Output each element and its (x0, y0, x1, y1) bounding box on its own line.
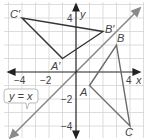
point-label-b-prime: B′ (105, 23, 115, 35)
tick-x-neg4: −4 (14, 75, 26, 86)
point-label-a: A (79, 86, 87, 98)
line-callout: y = x (4, 89, 38, 109)
x-axis-label: x (135, 74, 142, 86)
point-label-c: C (125, 126, 133, 138)
y-axis-arrow-icon (73, 4, 79, 11)
tick-y-4: 4 (67, 13, 73, 24)
line-callout-text: y = x (8, 90, 33, 102)
tick-x-neg2: −2 (40, 75, 52, 86)
tick-y-neg2: −2 (61, 94, 73, 105)
tick-y-neg4: −4 (61, 121, 73, 132)
tick-x-4: 4 (126, 75, 132, 86)
y-axis-arrow-icon (73, 131, 79, 138)
grid (4, 2, 144, 138)
coordinate-plane: y x −4 −2 4 4 −2 −4 A B C A′ B′ C′ y = x (0, 0, 146, 140)
point-label-b: B (117, 32, 124, 44)
point-label-a-prime: A′ (50, 60, 61, 72)
point-label-c-prime: C′ (10, 8, 21, 20)
